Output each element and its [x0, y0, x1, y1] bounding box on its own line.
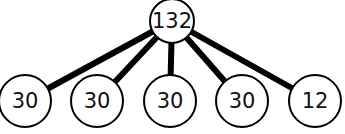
node-label: 132: [152, 9, 192, 33]
child-node: 12: [289, 75, 341, 127]
tree-diagram: 1323030303012: [0, 0, 345, 134]
node-label: 30: [229, 89, 256, 113]
node-label: 30: [84, 89, 111, 113]
child-node: 30: [0, 75, 51, 127]
child-node: 30: [71, 75, 123, 127]
node-label: 30: [12, 89, 39, 113]
root-node: 132: [150, 0, 194, 43]
node-label: 12: [302, 89, 329, 113]
child-node: 30: [216, 75, 268, 127]
node-label: 30: [157, 89, 184, 113]
child-node: 30: [144, 75, 196, 127]
